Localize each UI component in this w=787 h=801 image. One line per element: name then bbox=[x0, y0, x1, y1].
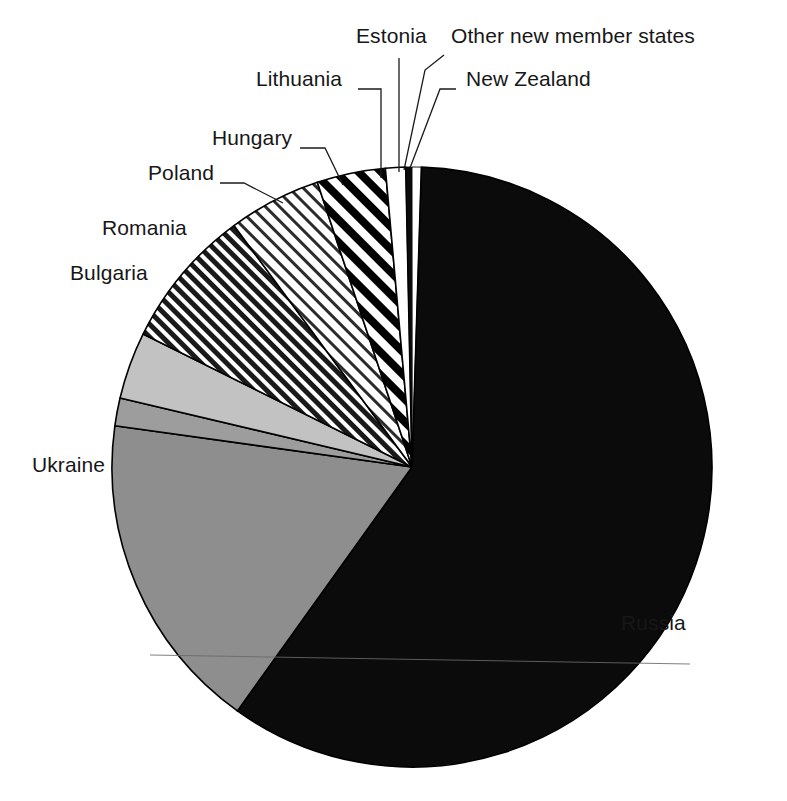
pie-label-other-new-member-states: Other new member states bbox=[451, 25, 695, 46]
pie-label-poland: Poland bbox=[148, 162, 214, 183]
pie-label-hungary: Hungary bbox=[212, 127, 292, 148]
pie-slices bbox=[112, 167, 712, 767]
pie-label-new-zealand: New Zealand bbox=[466, 68, 591, 89]
pie-chart-page: Estonia Other new member states Lithuani… bbox=[0, 0, 787, 801]
pie-label-estonia: Estonia bbox=[356, 25, 427, 46]
pie-label-bulgaria: Bulgaria bbox=[70, 262, 148, 283]
pie-chart-canvas bbox=[0, 0, 787, 801]
pie-label-lithuania: Lithuania bbox=[256, 68, 342, 89]
pie-label-romania: Romania bbox=[102, 217, 187, 238]
pie-label-russia: Russia bbox=[621, 612, 686, 633]
leader-line-lithuania bbox=[358, 89, 381, 178]
leader-line-new-zealand bbox=[410, 89, 456, 168]
leader-line-other-new-member-states bbox=[404, 55, 444, 170]
pie-label-ukraine: Ukraine bbox=[32, 454, 105, 475]
